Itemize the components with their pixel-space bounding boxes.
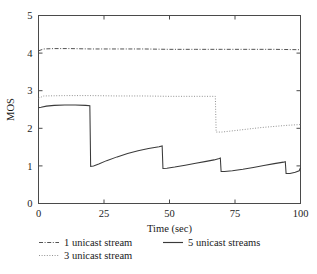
y-axis-title: MOS: [5, 98, 16, 121]
chart-legend: 1 unicast stream3 unicast stream5 unicas…: [39, 237, 260, 261]
x-tick-label: 25: [99, 208, 110, 219]
y-tick-label: 0: [27, 198, 32, 209]
x-tick-label: 0: [36, 208, 41, 219]
y-tick-label: 5: [27, 10, 32, 21]
legend-label: 3 unicast stream: [64, 250, 132, 261]
series-line-3: [39, 105, 301, 173]
y-tick-label: 1: [27, 161, 32, 172]
x-tick-label: 75: [230, 208, 241, 219]
plot-frame: [39, 16, 301, 204]
series-line-1: [39, 49, 301, 51]
y-tick-label: 2: [27, 123, 32, 134]
axes: [39, 16, 301, 204]
data-series: [39, 49, 301, 174]
x-axis-title: Time (sec): [147, 223, 192, 235]
series-line-2: [39, 96, 301, 132]
y-tick-label: 3: [27, 85, 32, 96]
y-tick-label: 4: [27, 48, 33, 59]
legend-label: 1 unicast stream: [64, 237, 132, 248]
x-tick-label: 50: [164, 208, 175, 219]
x-tick-label: 100: [293, 208, 309, 219]
mos-vs-time-chart: 0123450255075100Time (sec)MOS 1 unicast …: [0, 0, 317, 274]
chart-figure: 0123450255075100Time (sec)MOS 1 unicast …: [0, 0, 317, 274]
legend-label: 5 unicast streams: [188, 237, 260, 248]
axis-labels: 0123450255075100Time (sec)MOS: [5, 10, 308, 234]
